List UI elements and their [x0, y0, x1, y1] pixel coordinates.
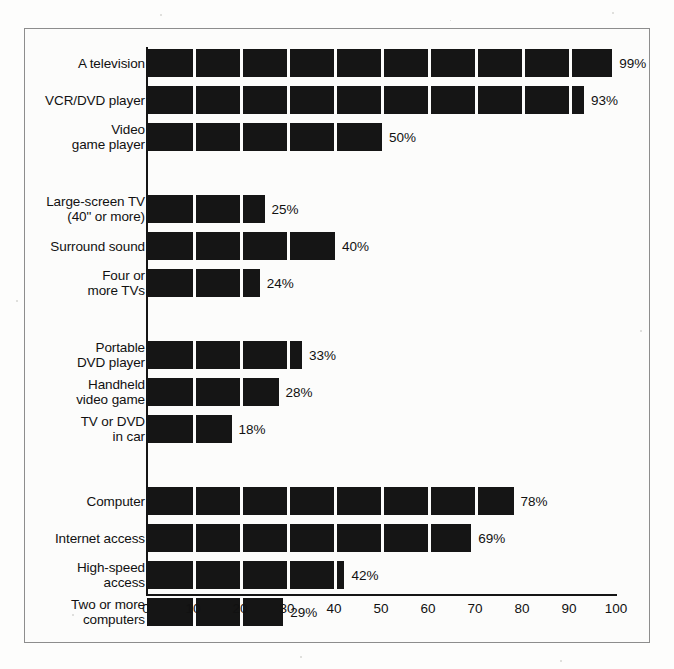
bar-category-label: A television [0, 56, 145, 71]
bar-row: TV or DVD in car18% [25, 415, 651, 443]
bar-row: Handheld video game28% [25, 378, 651, 406]
bar-category-label: Video game player [0, 122, 145, 152]
bar [147, 415, 232, 443]
x-tick-label: 80 [514, 601, 529, 616]
x-tick-label: 40 [326, 601, 341, 616]
bar-track: 50% [147, 123, 617, 151]
bar-value-label: 28% [279, 385, 313, 400]
bar-track: 40% [147, 232, 617, 260]
scan-speck [640, 330, 642, 332]
x-tick-label: 100 [605, 601, 628, 616]
bar [147, 232, 335, 260]
bar-category-label: Portable DVD player [0, 340, 145, 370]
bar-row: Surround sound40% [25, 232, 651, 260]
page-background: A television99%VCR/DVD player93%Video ga… [0, 0, 674, 669]
bar [147, 269, 260, 297]
bar-value-label: 69% [471, 531, 505, 546]
x-tick-label: 20 [232, 601, 247, 616]
bar-category-label: VCR/DVD player [0, 93, 145, 108]
bar-value-label: 78% [514, 494, 548, 509]
bar-category-label: Surround sound [0, 239, 145, 254]
bar-track: 25% [147, 195, 617, 223]
bar-value-label: 18% [232, 422, 266, 437]
bar-track: 18% [147, 415, 617, 443]
bar-category-label: High-speed access [0, 560, 145, 590]
bar-row: Internet access69% [25, 524, 651, 552]
bar-row: VCR/DVD player93% [25, 86, 651, 114]
bar-value-label: 24% [260, 276, 294, 291]
bar [147, 86, 584, 114]
scan-speck [612, 12, 614, 14]
bar-value-label: 42% [344, 568, 378, 583]
x-tick-label: 90 [561, 601, 576, 616]
bar-track: 99% [147, 49, 617, 77]
x-tick-label: 0 [142, 601, 150, 616]
chart-plot-area: A television99%VCR/DVD player93%Video ga… [25, 29, 651, 644]
bar-value-label: 93% [584, 93, 618, 108]
bar-row: Computer78% [25, 487, 651, 515]
bar [147, 487, 514, 515]
bar-row: Video game player50% [25, 123, 651, 151]
x-tick-label: 70 [467, 601, 482, 616]
bar-row: Four or more TVs24% [25, 269, 651, 297]
bar [147, 561, 344, 589]
bar [147, 341, 302, 369]
x-tick-label: 60 [420, 601, 435, 616]
bar [147, 598, 283, 626]
bar-row: Large-screen TV (40" or more)25% [25, 195, 651, 223]
bar-track: 33% [147, 341, 617, 369]
bar-category-label: Large-screen TV (40" or more) [0, 194, 145, 224]
x-axis-line [146, 594, 617, 596]
bar-track: 69% [147, 524, 617, 552]
bar-category-label: Handheld video game [0, 377, 145, 407]
bar-value-label: 25% [265, 202, 299, 217]
bar [147, 49, 612, 77]
scan-speck [300, 656, 302, 658]
bar-value-label: 40% [335, 239, 369, 254]
bar [147, 524, 471, 552]
bar-track: 93% [147, 86, 617, 114]
bar-row: Portable DVD player33% [25, 341, 651, 369]
bar [147, 123, 382, 151]
scan-speck [72, 614, 74, 616]
bar-value-label: 33% [302, 348, 336, 363]
bar [147, 378, 279, 406]
chart-frame: A television99%VCR/DVD player93%Video ga… [24, 28, 650, 643]
scan-speck [16, 300, 18, 302]
scan-speck [560, 660, 562, 662]
scan-speck [160, 14, 162, 16]
bar-category-label: Internet access [0, 531, 145, 546]
bar-value-label: 50% [382, 130, 416, 145]
bar-category-label: Computer [0, 494, 145, 509]
bar-row: A television99% [25, 49, 651, 77]
scan-speck [450, 20, 451, 21]
x-tick-label: 30 [279, 601, 294, 616]
bar-category-label: TV or DVD in car [0, 414, 145, 444]
bar-track: 28% [147, 378, 617, 406]
bar-track: 78% [147, 487, 617, 515]
bar [147, 195, 265, 223]
bar-track: 42% [147, 561, 617, 589]
x-tick-label: 10 [185, 601, 200, 616]
bar-category-label: Two or more computers [0, 597, 145, 627]
bar-category-label: Four or more TVs [0, 268, 145, 298]
x-tick-label: 50 [373, 601, 388, 616]
bar-track: 24% [147, 269, 617, 297]
bar-value-label: 99% [612, 56, 646, 71]
bar-row: High-speed access42% [25, 561, 651, 589]
